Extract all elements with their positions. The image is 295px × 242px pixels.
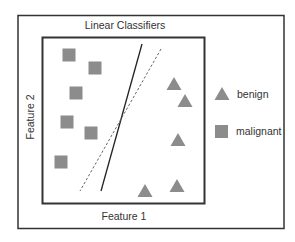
legend-item-benign: benign: [215, 87, 269, 100]
y-axis-label: Feature 2: [24, 94, 36, 139]
malignant-points: [55, 49, 102, 169]
malignant-square-marker: [55, 156, 68, 169]
malignant-square-marker: [89, 62, 102, 75]
diagram-title: Linear Classifiers: [85, 19, 166, 31]
solid-classifier-line: [101, 44, 142, 191]
benign-triangle-marker: [170, 179, 185, 192]
x-axis-label: Feature 1: [102, 210, 147, 222]
malignant-square-marker: [63, 49, 76, 62]
malignant-square-marker: [70, 87, 83, 100]
malignant-square-marker: [61, 116, 74, 129]
triangle-icon: [215, 87, 230, 100]
square-icon: [215, 125, 228, 138]
benign-triangle-marker: [138, 184, 153, 197]
benign-triangle-marker: [178, 94, 193, 107]
benign-triangle-marker: [167, 77, 182, 90]
legend: benign malignant: [215, 87, 282, 138]
linear-classifiers-diagram: Linear Classifiers Feature 1 Feature 2 b…: [0, 0, 295, 242]
malignant-square-marker: [85, 127, 98, 140]
legend-item-malignant: malignant: [215, 125, 282, 138]
benign-triangle-marker: [171, 133, 186, 146]
legend-label-malignant: malignant: [236, 125, 282, 137]
benign-points: [138, 77, 193, 197]
legend-label-benign: benign: [237, 88, 269, 100]
